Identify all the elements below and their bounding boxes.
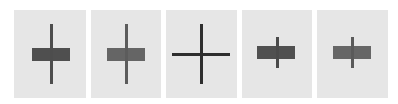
panel-tall-light bbox=[91, 10, 161, 98]
panel-cross bbox=[166, 10, 237, 98]
vertical-line bbox=[351, 37, 354, 68]
panel-tall-dark bbox=[14, 10, 86, 98]
vertical-line bbox=[125, 24, 128, 84]
vertical-line bbox=[276, 37, 279, 68]
panel-short-dark bbox=[242, 10, 312, 98]
vertical-line bbox=[50, 24, 53, 84]
vertical-line bbox=[200, 24, 203, 84]
panel-short-light bbox=[317, 10, 388, 98]
